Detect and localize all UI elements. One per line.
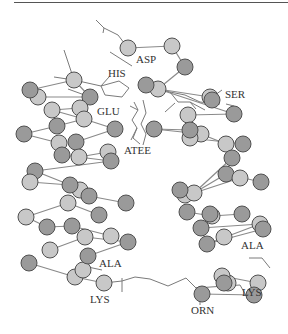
label-asp: ASP (136, 53, 156, 65)
label-lys-left: LYS (90, 293, 110, 305)
atoms (16, 38, 271, 303)
label-ala-right: ALA (241, 239, 264, 251)
label-ala-left: ALA (99, 257, 122, 269)
label-atee: ATEE (124, 144, 151, 156)
label-lys-right: LYS (242, 286, 262, 298)
label-his: HIS (108, 67, 126, 79)
label-glu: GLU (97, 105, 120, 117)
label-ser: SER (225, 88, 246, 100)
label-orn: ORN (191, 304, 214, 316)
molecule-diagram: ASP HIS SER GLU ATEE ALA ALA LYS LYS ORN (0, 0, 288, 334)
